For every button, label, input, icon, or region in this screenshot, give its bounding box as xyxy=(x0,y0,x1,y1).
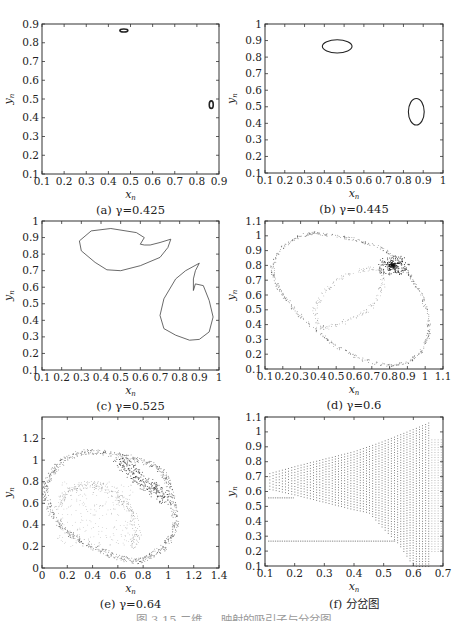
y-tick-label: 0.7 xyxy=(245,470,262,482)
y-axis-label: yn xyxy=(225,486,239,498)
y-tick-label: 0.5 xyxy=(245,500,262,512)
figure-caption: 图 3.15 二维 ... 映射的吸引子与分岔图 xyxy=(0,611,467,621)
x-tick-label: 0.5 xyxy=(375,567,392,579)
y-tick-label: 0.6 xyxy=(245,485,262,497)
y-tick-label: 0.9 xyxy=(245,440,262,452)
x-axis-label: xn xyxy=(349,580,360,594)
x-tick-label: 0.6 xyxy=(405,567,422,579)
y-tick-label: 0.1 xyxy=(245,560,262,572)
plot-area xyxy=(268,423,442,567)
y-tick-label: 0.2 xyxy=(245,545,262,557)
x-tick-label: 0.7 xyxy=(435,567,452,579)
x-tick-label: 0.3 xyxy=(316,567,333,579)
subfigure-caption-f: (f) 分岔图 xyxy=(245,595,463,611)
y-tick-label: 0.3 xyxy=(245,530,262,542)
y-tick-label: 1.1 xyxy=(245,411,262,423)
y-tick-label: 0.4 xyxy=(245,515,262,527)
y-tick-label: 0.8 xyxy=(245,455,262,467)
x-tick-label: 0.4 xyxy=(346,567,363,579)
chart-f: 0.10.20.30.40.50.60.70.10.20.30.40.50.60… xyxy=(0,0,467,621)
y-tick-label: 1 xyxy=(255,425,262,437)
x-tick-label: 0.2 xyxy=(286,567,303,579)
